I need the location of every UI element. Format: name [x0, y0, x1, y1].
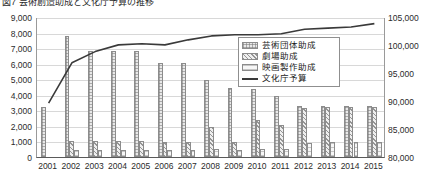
legend-item[interactable]: 芸術団体助成: [242, 40, 336, 51]
x-axis-tick-label: 2011: [271, 161, 289, 171]
x-axis-tick-label: 2005: [131, 161, 150, 171]
left-axis-tick-label: 3,000: [0, 106, 32, 116]
x-axis-tick-label: 2001: [38, 161, 57, 171]
left-axis-tick-label: 2,000: [0, 122, 32, 132]
legend-item-label: 文化庁予算: [262, 73, 307, 84]
left-axis-tick-label: 1,000: [0, 137, 32, 147]
x-axis-tick-label: 2006: [154, 161, 173, 171]
left-axis-tick-label: 5,000: [0, 75, 32, 85]
figure-container: 図7 芸術創造助成と文化庁予算の推移 9,0008,0007,0006,0005…: [0, 0, 424, 178]
x-axis-tick-label: 2012: [294, 161, 313, 171]
x-axis-tick-label: 2015: [364, 161, 383, 171]
x-axis-tick-label: 2010: [248, 161, 267, 171]
x-axis-tick-label: 2003: [85, 161, 104, 171]
legend-item[interactable]: 文化庁予算: [242, 73, 336, 84]
left-axis-tick-label: 0: [0, 153, 32, 163]
right-axis-tick-label: 80,000: [388, 153, 424, 163]
left-axis-tick-label: 6,000: [0, 60, 32, 70]
x-axis-tick-label: 2002: [61, 161, 80, 171]
x-axis-tick-label: 2004: [108, 161, 127, 171]
left-axis-tick-label: 9,000: [0, 13, 32, 23]
right-axis-tick-label: 100,000: [388, 41, 424, 51]
legend-item-label: 芸術団体助成: [262, 40, 316, 51]
x-axis-tick-label: 2008: [201, 161, 220, 171]
left-axis-tick-label: 7,000: [0, 44, 32, 54]
figure-title: 図7 芸術創造助成と文化庁予算の推移: [2, 0, 154, 8]
x-axis-tick-label: 2009: [224, 161, 243, 171]
right-axis-tick-label: 105,000: [388, 13, 424, 23]
legend-bar-swatch-icon: [242, 64, 258, 71]
legend-item-label: 映画製作助成: [262, 62, 316, 73]
x-axis-tick-label: 2007: [178, 161, 197, 171]
left-axis-tick-label: 8,000: [0, 29, 32, 39]
x-axis-tick-label: 2014: [341, 161, 360, 171]
legend-item-label: 劇場助成: [262, 51, 298, 62]
legend: 芸術団体助成劇場助成映画製作助成文化庁予算: [238, 37, 340, 87]
right-axis-tick-label: 90,000: [388, 97, 424, 107]
right-axis-tick-label: 85,000: [388, 125, 424, 135]
left-axis-tick-label: 4,000: [0, 91, 32, 101]
right-axis-tick-label: 95,000: [388, 69, 424, 79]
legend-bar-swatch-icon: [242, 42, 258, 49]
legend-line-swatch-icon: [242, 78, 258, 80]
legend-item[interactable]: 劇場助成: [242, 51, 336, 62]
legend-bar-swatch-icon: [242, 53, 258, 60]
legend-item[interactable]: 映画製作助成: [242, 62, 336, 73]
x-axis-tick-label: 2013: [317, 161, 336, 171]
